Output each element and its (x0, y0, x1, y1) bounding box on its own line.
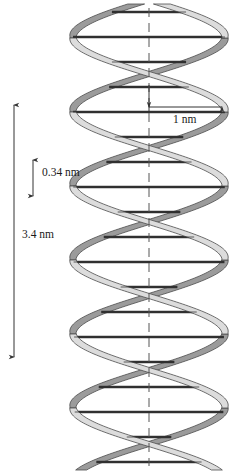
dna-figure: 1 nm 0.34 nm 3.4 nm (0, 0, 236, 474)
helix-ribbon-front-segment (153, 4, 228, 38)
helix-diameter-label: 1 nm (173, 113, 196, 125)
helix-pitch-label: 3.4 nm (22, 228, 54, 240)
base-pair-rise-label: 0.34 nm (42, 166, 80, 178)
helix-ribbon-back-segment (70, 4, 145, 38)
dimension-annotations (14, 85, 222, 357)
